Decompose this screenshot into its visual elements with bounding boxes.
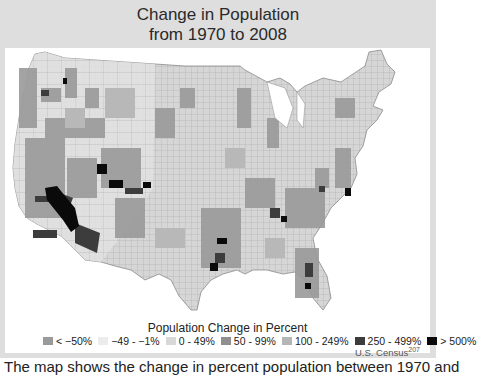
- legend-item-100-to-249: 100 - 249%: [282, 335, 349, 347]
- legend-label: > 500%: [440, 335, 476, 347]
- map-panel: Population Change in Percent < −50% −49 …: [5, 48, 430, 353]
- legend-swatch: [355, 337, 365, 345]
- legend-swatch: [166, 337, 176, 345]
- legend-title: Population Change in Percent: [5, 321, 430, 335]
- legend-swatch: [427, 337, 437, 345]
- legend-label: −49 - −1%: [111, 335, 159, 347]
- legend-label: < −50%: [56, 335, 92, 347]
- legend-item-50-to-99: 50 - 99%: [221, 335, 276, 347]
- legend-label: 50 - 99%: [234, 335, 276, 347]
- legend-label: 0 - 49%: [179, 335, 215, 347]
- legend-item-lt-minus-50: < −50%: [43, 335, 92, 347]
- map-title: Change in Population from 1970 to 2008: [0, 5, 436, 45]
- legend-swatch: [43, 337, 53, 345]
- source-credit: U.S. Census207: [355, 346, 420, 358]
- title-line-1: Change in Population: [0, 5, 436, 25]
- legend-swatch: [221, 337, 231, 345]
- us-county-map: [5, 48, 430, 318]
- legend-swatch: [282, 337, 292, 345]
- legend-item-0-to-49: 0 - 49%: [166, 335, 215, 347]
- legend-item-gt-500: > 500%: [427, 335, 476, 347]
- credit-reference: 207: [408, 346, 420, 353]
- legend-label: 100 - 249%: [295, 335, 349, 347]
- title-line-2: from 1970 to 2008: [0, 25, 436, 45]
- legend-swatch: [98, 337, 108, 345]
- legend-item-minus-49-to-minus-1: −49 - −1%: [98, 335, 159, 347]
- figure-frame: Change in Population from 1970 to 2008: [0, 0, 436, 358]
- credit-text: U.S. Census: [355, 347, 408, 358]
- figure-caption: The map shows the change in percent popu…: [4, 358, 459, 376]
